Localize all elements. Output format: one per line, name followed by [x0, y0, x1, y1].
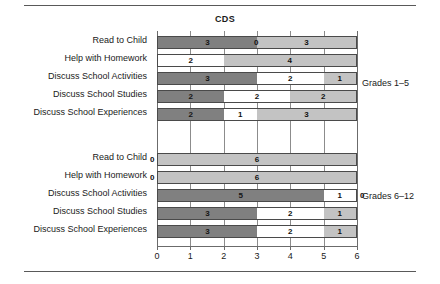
- x-axis-tick: [257, 246, 258, 250]
- x-axis-tick: [157, 246, 158, 250]
- zero-value-label: 0: [254, 37, 258, 49]
- stacked-bar[interactable]: 321: [157, 207, 357, 220]
- bar-segment[interactable]: 1: [324, 225, 357, 238]
- x-axis-tick: [290, 246, 291, 250]
- category-label: Discuss School Activities: [0, 67, 152, 85]
- bar-segment[interactable]: 3: [157, 36, 257, 49]
- category-label: Read to Child: [0, 31, 152, 49]
- bar-segment[interactable]: 2: [224, 90, 291, 103]
- category-labels-grades-6-12: Read to Child Help with Homework Discuss…: [0, 148, 152, 238]
- bar-segment[interactable]: 3: [157, 207, 257, 220]
- x-axis-tick: [324, 246, 325, 250]
- bottom-divider-rule: [24, 271, 416, 272]
- bar-segment[interactable]: 2: [157, 108, 224, 121]
- bar-row: 213: [157, 103, 357, 121]
- stacked-bar[interactable]: 321: [157, 225, 357, 238]
- x-axis-tick: [190, 246, 191, 250]
- bar-segment[interactable]: 1: [324, 207, 357, 220]
- x-axis-tick-label: 2: [221, 251, 226, 261]
- group-annotation-grades-6-12: Grades 6–12: [362, 191, 414, 201]
- category-label: Discuss School Experiences: [0, 220, 152, 238]
- stacked-bar[interactable]: 222: [157, 90, 357, 103]
- stacked-bar[interactable]: 24: [157, 54, 357, 67]
- x-axis-tick-label: 6: [354, 251, 359, 261]
- bar-segment[interactable]: 2: [257, 72, 324, 85]
- stacked-bar[interactable]: 213: [157, 108, 357, 121]
- bar-segment[interactable]: 5: [157, 189, 324, 202]
- gridline: [357, 31, 358, 246]
- bar-row: 510: [157, 184, 357, 202]
- stacked-bar[interactable]: 51: [157, 189, 357, 202]
- bar-segment[interactable]: 3: [157, 72, 257, 85]
- bar-segment[interactable]: 1: [324, 189, 357, 202]
- x-axis-tick-label: 0: [154, 251, 159, 261]
- bar-segment[interactable]: 3: [157, 225, 257, 238]
- bar-row: 24: [157, 49, 357, 67]
- category-label: Read to Child: [0, 148, 152, 166]
- bar-row: 321: [157, 67, 357, 85]
- chart-title: CDS: [0, 14, 440, 24]
- category-label: Discuss School Activities: [0, 184, 152, 202]
- x-axis-tick: [224, 246, 225, 250]
- bar-row: 321: [157, 220, 357, 238]
- bar-segment[interactable]: 1: [324, 72, 357, 85]
- bar-segment[interactable]: 2: [257, 225, 324, 238]
- category-label: Help with Homework: [0, 49, 152, 67]
- group-annotation-grades-1-5: Grades 1–5: [362, 78, 409, 88]
- category-label: Discuss School Studies: [0, 202, 152, 220]
- category-label: Help with Homework: [0, 166, 152, 184]
- x-axis-tick: [357, 246, 358, 250]
- stacked-bar[interactable]: 321: [157, 72, 357, 85]
- plot-area: 33024321222213 6060510321321: [157, 31, 357, 246]
- bar-segment[interactable]: 6: [157, 171, 357, 184]
- bar-segment[interactable]: 2: [157, 54, 224, 67]
- bar-row: 60: [157, 148, 357, 166]
- zero-value-label: 0: [150, 154, 154, 166]
- bar-segment[interactable]: 2: [290, 90, 357, 103]
- bar-segment[interactable]: 2: [257, 207, 324, 220]
- bar-segment[interactable]: 6: [157, 153, 357, 166]
- bar-segment[interactable]: 4: [224, 54, 357, 67]
- x-axis-tick-label: 5: [321, 251, 326, 261]
- top-divider-rule: [24, 5, 416, 6]
- category-label: Discuss School Studies: [0, 85, 152, 103]
- zero-value-label: 0: [150, 172, 154, 184]
- bar-row: 330: [157, 31, 357, 49]
- stacked-bar[interactable]: 6: [157, 171, 357, 184]
- category-label: Discuss School Experiences: [0, 103, 152, 121]
- bar-group-grades-6-12: 6060510321321: [157, 148, 357, 238]
- x-axis-tick-label: 3: [254, 251, 259, 261]
- x-axis-tick-label: 4: [288, 251, 293, 261]
- bar-segment[interactable]: 1: [224, 108, 257, 121]
- bar-segment[interactable]: 3: [257, 108, 357, 121]
- x-axis: 0123456: [157, 246, 357, 266]
- stacked-bar[interactable]: 6: [157, 153, 357, 166]
- bar-segment[interactable]: 3: [257, 36, 357, 49]
- bar-row: 222: [157, 85, 357, 103]
- chart-title-text: CDS: [215, 14, 235, 24]
- bar-segment[interactable]: 2: [157, 90, 224, 103]
- bar-row: 321: [157, 202, 357, 220]
- bar-group-grades-1-5: 33024321222213: [157, 31, 357, 121]
- x-axis-tick-label: 1: [188, 251, 193, 261]
- bar-row: 60: [157, 166, 357, 184]
- category-labels-grades-1-5: Read to Child Help with Homework Discuss…: [0, 31, 152, 121]
